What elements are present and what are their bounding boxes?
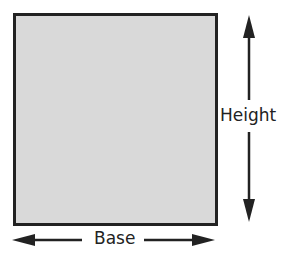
dimension-arrows <box>0 0 291 256</box>
height-label: Height <box>220 107 276 124</box>
base-label: Base <box>94 230 135 247</box>
